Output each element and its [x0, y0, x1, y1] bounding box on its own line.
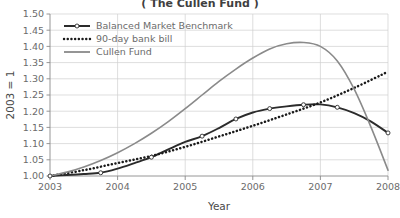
data-point-marker: [48, 174, 52, 178]
y-tick-label: 1.05: [23, 154, 44, 165]
x-tick-label: 2004: [106, 181, 130, 192]
y-tick-label: 1.25: [23, 89, 44, 100]
data-point-marker: [302, 103, 306, 107]
legend-label: Balanced Market Benchmark: [96, 20, 233, 31]
x-tick-label: 2007: [308, 181, 332, 192]
data-point-marker: [99, 171, 103, 175]
x-tick-label: 2008: [376, 181, 400, 192]
data-point-marker: [234, 117, 238, 121]
y-tick-label: 1.30: [23, 73, 44, 84]
data-point-marker: [149, 155, 153, 159]
legend-label: 90-day bank bill: [96, 33, 172, 44]
y-tick-label: 1.00: [23, 170, 44, 181]
data-point-markers: [48, 103, 390, 178]
data-point-marker: [200, 134, 204, 138]
x-tick-label: 2003: [38, 181, 62, 192]
x-tick-label: 2005: [173, 181, 197, 192]
x-tick-label: 2006: [241, 181, 265, 192]
y-tick-label: 1.20: [23, 106, 44, 117]
y-tick-label: 1.10: [23, 138, 44, 149]
y-tick-label: 1.40: [23, 41, 44, 52]
y-axis-tick-labels: 1.001.051.101.151.201.251.301.351.401.45…: [23, 8, 44, 181]
data-point-marker: [386, 131, 390, 135]
data-point-marker: [268, 107, 272, 111]
chart-title: ( The Cullen Fund ): [141, 0, 258, 10]
line-chart: ( The Cullen Fund ) 1.001.051.101.151.20…: [0, 0, 400, 218]
x-axis-title: Year: [207, 200, 231, 212]
legend-marker: [75, 24, 79, 28]
y-tick-label: 1.50: [23, 8, 44, 19]
data-point-marker: [335, 105, 339, 109]
chart-legend: Balanced Market Benchmark90-day bank bil…: [64, 20, 233, 57]
y-axis-title: 2003 = 1: [4, 71, 16, 120]
series-line-balanced-market-benchmark: [50, 104, 388, 176]
legend-label: Cullen Fund: [96, 46, 152, 57]
y-tick-label: 1.15: [23, 122, 44, 133]
x-axis-tick-labels: 200320042005200620072008: [38, 181, 400, 192]
chart-container: ( The Cullen Fund ) 1.001.051.101.151.20…: [0, 0, 400, 218]
y-tick-label: 1.35: [23, 57, 44, 68]
y-tick-label: 1.45: [23, 25, 44, 36]
